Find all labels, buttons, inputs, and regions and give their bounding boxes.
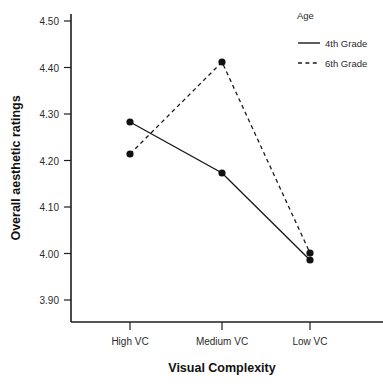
y-tick-label: 4.40 [40,63,60,74]
legend: Age 4th Grade 6th Grade [297,10,367,69]
series-markers-4th-grade [126,118,313,263]
series-line-4th-grade [130,122,310,260]
chart-container: 4.50 4.40 4.30 4.20 4.10 4.00 3.90 High … [0,0,383,386]
data-point [218,169,225,176]
x-tick-label: High VC [111,336,148,347]
x-axis-ticks [130,322,310,330]
y-tick-label: 3.90 [40,295,60,306]
series-line-6th-grade [130,62,310,253]
y-tick-label: 4.10 [40,202,60,213]
x-axis-title: Visual Complexity [168,361,275,375]
legend-title: Age [297,10,314,21]
x-tick-label: Medium VC [196,336,248,347]
y-tick-label: 4.30 [40,109,60,120]
data-point [126,118,133,125]
data-point [306,256,313,263]
data-point [306,249,313,256]
y-axis-title: Overall aesthetic ratings [9,95,23,240]
legend-label-4th-grade: 4th Grade [325,38,367,49]
y-tick-label: 4.50 [40,16,60,27]
x-tick-label: Low VC [292,336,327,347]
line-chart: 4.50 4.40 4.30 4.20 4.10 4.00 3.90 High … [0,0,383,386]
series-markers-6th-grade [126,58,313,256]
data-point [218,58,225,65]
legend-label-6th-grade: 6th Grade [325,58,367,69]
x-axis-tick-labels: High VC Medium VC Low VC [111,336,327,347]
data-point [126,150,133,157]
y-tick-label: 4.00 [40,249,60,260]
y-tick-label: 4.20 [40,156,60,167]
y-axis-ticks [64,21,71,300]
y-axis-tick-labels: 4.50 4.40 4.30 4.20 4.10 4.00 3.90 [40,16,60,306]
